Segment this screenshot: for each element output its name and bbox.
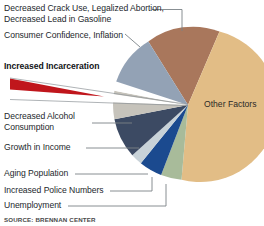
label-aging-population: Aging Population xyxy=(4,168,68,179)
label-decreased-alcohol-line2: Consumption xyxy=(4,122,54,133)
label-increased-incarceration: Increased Incarceration xyxy=(4,61,99,72)
leader-line-increased-police xyxy=(110,177,152,191)
label-increased-police-numbers: Increased Police Numbers xyxy=(4,185,104,196)
label-unemployment: Unemployment xyxy=(4,200,61,211)
pie-chart-figure: Decreased Crack Use, Legalized Abortion,… xyxy=(0,0,264,226)
label-decreased-alcohol-line1: Decreased Alcohol xyxy=(4,111,75,122)
label-decreased-crack-use-line2: Decreased Lead in Gasoline xyxy=(4,14,111,25)
label-decreased-crack-use-line1: Decreased Crack Use, Legalized Abortion, xyxy=(4,3,164,14)
leader-line-consumer-confidence xyxy=(125,34,140,47)
source-note: SOURCE: BRENNAN CENTER xyxy=(4,216,96,223)
label-consumer-confidence-inflation: Consumer Confidence, Inflation xyxy=(4,30,123,41)
label-growth-in-income: Growth in Income xyxy=(4,142,71,153)
label-other-factors: Other Factors xyxy=(204,99,257,109)
